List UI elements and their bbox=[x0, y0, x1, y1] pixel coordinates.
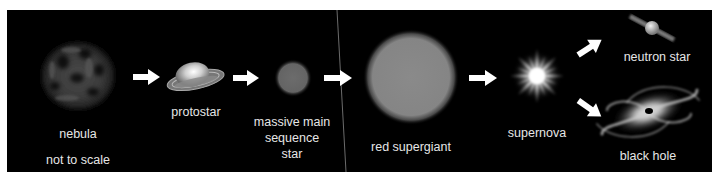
black-hole-icon bbox=[597, 82, 699, 142]
not-to-scale-note: not to scale bbox=[46, 152, 110, 168]
neutron-star-label: neutron star bbox=[624, 49, 691, 65]
arrow-up-right-icon bbox=[574, 33, 606, 62]
star-lifecycle-diagram: nebula not to scale protostar massive ma… bbox=[7, 10, 712, 172]
supernova-label: supernova bbox=[508, 125, 566, 141]
neutron-star-icon bbox=[629, 14, 675, 42]
nebula-icon bbox=[38, 39, 118, 113]
supernova-icon bbox=[510, 49, 564, 103]
section-divider bbox=[337, 10, 346, 172]
protostar-icon bbox=[164, 56, 226, 94]
arrow-right-icon bbox=[469, 70, 497, 86]
main-sequence-label-line3: star bbox=[282, 146, 303, 162]
red-supergiant-label: red supergiant bbox=[371, 139, 451, 155]
arrow-right-icon bbox=[233, 70, 259, 86]
arrow-down-right-icon bbox=[574, 94, 606, 123]
main-sequence-label-line1: massive main bbox=[254, 114, 330, 130]
protostar-label: protostar bbox=[171, 104, 220, 120]
diagram-artwork bbox=[7, 10, 712, 172]
arrow-right-icon bbox=[133, 69, 160, 85]
nebula-label: nebula bbox=[59, 126, 97, 142]
arrow-right-icon bbox=[324, 70, 352, 86]
main-sequence-star-icon bbox=[274, 59, 312, 97]
red-supergiant-icon bbox=[363, 29, 459, 125]
main-sequence-label-line2: sequence bbox=[265, 130, 319, 146]
black-hole-label: black hole bbox=[620, 148, 676, 164]
